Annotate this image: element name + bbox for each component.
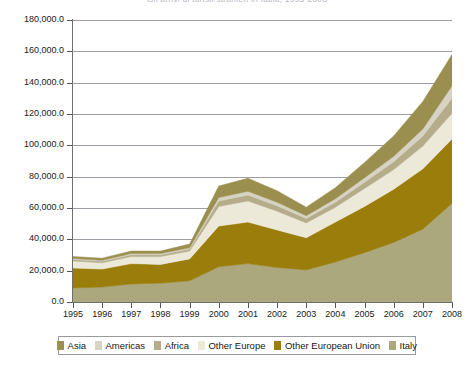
x-tick-label: 2000 bbox=[209, 309, 229, 319]
y-tick-label: 140,000.0 bbox=[24, 77, 64, 87]
x-tick-label: 2003 bbox=[296, 309, 316, 319]
legend-label: Americas bbox=[106, 341, 146, 351]
y-tick-label: 120,000.0 bbox=[24, 108, 64, 118]
x-tick-mark bbox=[73, 303, 74, 308]
y-tick-label: 100,000.0 bbox=[24, 139, 64, 149]
legend-item: Americas bbox=[95, 341, 145, 351]
legend-item: Other European Union bbox=[274, 341, 380, 351]
stacked-area-chart: Gli arrivi di turisti stranieri in Itali… bbox=[0, 0, 474, 374]
x-tick-mark bbox=[160, 303, 161, 308]
x-tick-mark bbox=[452, 303, 453, 308]
y-tick-label: 160,000.0 bbox=[24, 45, 64, 55]
x-tick-label: 1995 bbox=[63, 309, 83, 319]
y-tick-label: 0.0 bbox=[51, 296, 64, 306]
y-tick-label: 80,000.0 bbox=[29, 171, 64, 181]
x-tick-mark bbox=[423, 303, 424, 308]
chart-legend: AsiaAmericasAfricaOther EuropeOther Euro… bbox=[58, 336, 416, 355]
legend-item: Other Europe bbox=[198, 341, 266, 351]
x-axis-line bbox=[72, 302, 453, 303]
legend-item: Asia bbox=[57, 341, 86, 351]
legend-swatch-icon bbox=[274, 341, 281, 350]
legend-item: Africa bbox=[154, 341, 189, 351]
x-tick-mark bbox=[219, 303, 220, 308]
y-tick-label: 40,000.0 bbox=[29, 233, 64, 243]
x-tick-label: 1996 bbox=[92, 309, 112, 319]
x-tick-label: 1998 bbox=[150, 309, 170, 319]
legend-swatch-icon bbox=[154, 341, 161, 350]
x-tick-mark bbox=[248, 303, 249, 308]
y-tick-label: 180,000.0 bbox=[24, 14, 64, 24]
legend-swatch-icon bbox=[198, 341, 205, 350]
legend-swatch-icon bbox=[95, 341, 102, 350]
x-tick-label: 2008 bbox=[442, 309, 462, 319]
x-tick-mark bbox=[131, 303, 132, 308]
x-tick-label: 2005 bbox=[355, 309, 375, 319]
x-tick-mark bbox=[306, 303, 307, 308]
x-tick-mark bbox=[365, 303, 366, 308]
x-tick-label: 2001 bbox=[238, 309, 258, 319]
x-tick-mark bbox=[190, 303, 191, 308]
legend-label: Italy bbox=[400, 341, 417, 351]
x-tick-mark bbox=[394, 303, 395, 308]
legend-label: Other Europe bbox=[208, 341, 265, 351]
legend-label: Asia bbox=[68, 341, 86, 351]
legend-label: Other European Union bbox=[285, 341, 380, 351]
x-tick-label: 2002 bbox=[267, 309, 287, 319]
legend-swatch-icon bbox=[57, 341, 64, 350]
area-series-group bbox=[73, 20, 452, 302]
x-tick-label: 2004 bbox=[325, 309, 345, 319]
x-tick-label: 2007 bbox=[413, 309, 433, 319]
x-tick-mark bbox=[335, 303, 336, 308]
legend-swatch-icon bbox=[389, 341, 396, 350]
y-tick-label: 60,000.0 bbox=[29, 202, 64, 212]
x-tick-label: 1997 bbox=[121, 309, 141, 319]
legend-label: Africa bbox=[165, 341, 189, 351]
x-tick-mark bbox=[277, 303, 278, 308]
x-tick-label: 2006 bbox=[384, 309, 404, 319]
plot-wrapper: 0.020,000.040,000.060,000.080,000.0100,0… bbox=[0, 0, 474, 330]
x-tick-label: 1999 bbox=[180, 309, 200, 319]
x-tick-mark bbox=[102, 303, 103, 308]
y-tick-label: 20,000.0 bbox=[29, 265, 64, 275]
legend-item: Italy bbox=[389, 341, 417, 351]
